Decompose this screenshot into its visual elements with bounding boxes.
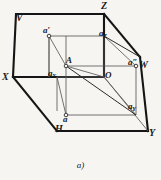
label-origin-o: O xyxy=(105,71,112,80)
plane-w-top-edge xyxy=(104,14,140,57)
plane-v-outline xyxy=(13,14,104,77)
label-projection-a-prime: a′ xyxy=(43,26,50,35)
point-markers-group xyxy=(47,34,138,117)
label-intercept-ay: aY xyxy=(128,102,136,111)
label-intercept-ay-sub: Y xyxy=(132,105,136,112)
label-intercept-az: aZ xyxy=(99,29,107,38)
label-plane-v: V xyxy=(16,13,23,23)
label-projection-a: a xyxy=(63,115,68,124)
plane-boundary-group xyxy=(13,14,148,131)
diag-O-to-Y xyxy=(104,77,148,131)
figure-caption: a) xyxy=(0,160,161,170)
label-axis-x: X xyxy=(2,72,9,82)
label-intercept-ax: aX xyxy=(48,69,57,78)
plane-h-left-edge xyxy=(13,77,57,131)
label-axis-z: Z xyxy=(101,1,107,11)
ray-aZ-to-aPP-to-Y xyxy=(104,36,140,57)
ray-A-to-aY-long xyxy=(66,66,136,115)
projection-figure: V Z W X Y H O A a′ a″ a aX aY aZ a) xyxy=(0,0,161,180)
label-intercept-ax-sub: X xyxy=(52,72,56,79)
label-projection-a-double-prime: a″ xyxy=(128,58,137,67)
diag-aX-to-a xyxy=(57,77,66,115)
label-point-a: A xyxy=(66,56,72,65)
diag-A-to-O xyxy=(66,66,104,77)
label-plane-w: W xyxy=(139,60,148,70)
label-intercept-az-sub: Z xyxy=(103,32,107,39)
label-axis-y: Y xyxy=(149,128,155,138)
diag-aprime-to-A xyxy=(49,36,66,66)
projection-diagram-svg xyxy=(0,0,161,180)
label-plane-h: H xyxy=(55,124,63,134)
